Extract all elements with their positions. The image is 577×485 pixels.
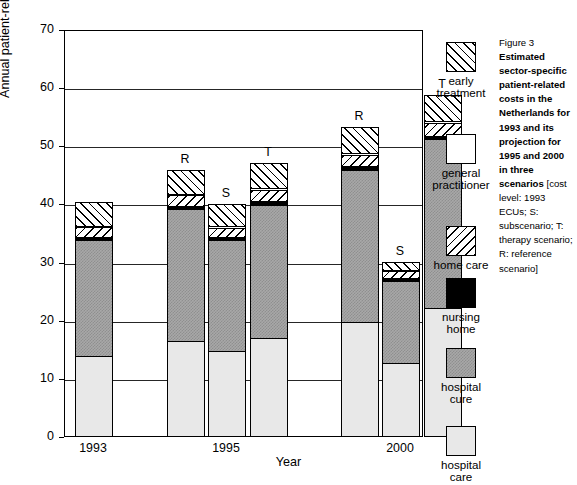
bar-1993	[75, 202, 113, 436]
bar-segment-hospital-cure	[341, 170, 379, 323]
legend-label-home-care: home care	[430, 259, 492, 271]
bar-segment-home-care	[250, 190, 288, 202]
bar-segment-hospital-care	[250, 338, 288, 437]
bar-segment-early-treatment	[208, 204, 246, 227]
bar-segment-home-care	[341, 155, 379, 168]
x-tick-label-1993: 1993	[79, 441, 107, 455]
bar-scenario-tag-1995-T: T	[264, 145, 272, 159]
x-tick-label-2000: 2000	[386, 441, 414, 455]
figure-caption: Figure 3 Estimated sector-specific patie…	[499, 36, 575, 276]
y-tick-label-0: 0	[26, 429, 54, 443]
bar-scenario-tag-2000-T: T	[438, 77, 446, 91]
swatch-general-practitioner	[446, 134, 476, 164]
figure-root: Annual patient-related costs in ECUs (Mi…	[0, 0, 577, 485]
y-tick-label-70: 70	[26, 22, 54, 36]
bar-segment-hospital-care	[167, 341, 205, 437]
bar-segment-home-care	[382, 271, 420, 279]
y-tick-label-40: 40	[26, 196, 54, 210]
bar-segment-hospital-care	[75, 356, 113, 437]
bar-segment-home-care	[167, 195, 205, 206]
legend-item-general-practitioner: generalpractitioner	[430, 134, 492, 192]
legend-item-hospital-cure: hospital cure	[430, 348, 492, 406]
bar-segment-hospital-cure	[382, 281, 420, 364]
y-tick-label-60: 60	[26, 80, 54, 94]
bar-segment-early-treatment	[75, 202, 113, 226]
caption-figure-number: Figure 3	[499, 36, 575, 50]
y-tick-mark-0	[59, 437, 64, 438]
bar-segment-early-treatment	[250, 163, 288, 190]
swatch-home-care	[446, 226, 476, 256]
bar-segment-early-treatment	[382, 262, 420, 271]
legend-item-home-care: home care	[430, 226, 492, 271]
swatch-nursing-home	[446, 278, 476, 308]
legend-label-nursing-home: nursing home	[430, 311, 492, 336]
legend-label-hospital-cure: hospital cure	[430, 381, 492, 406]
swatch-hospital-cure	[446, 348, 476, 378]
swatch-early-treatment	[446, 42, 476, 72]
bar-segment-hospital-cure	[250, 205, 288, 339]
bar-segment-hospital-care	[341, 322, 379, 437]
bar-segment-early-treatment	[167, 170, 205, 195]
bar-1995-R	[167, 170, 205, 436]
legend-label-hospital-care: hospital care	[430, 459, 492, 484]
legend-item-nursing-home: nursing home	[430, 278, 492, 336]
bar-2000-R	[341, 127, 379, 436]
bar-segment-hospital-cure	[208, 240, 246, 351]
bar-1995-T	[250, 163, 288, 436]
bar-scenario-tag-2000-R: R	[355, 109, 364, 123]
bar-segment-hospital-cure	[75, 240, 113, 357]
caption-bold: Estimated sector-specific patient-relate…	[499, 51, 570, 189]
bar-segment-home-care	[75, 227, 113, 237]
y-axis-title: Annual patient-related costs in ECUs (Mi…	[0, 0, 12, 98]
x-tick-label-1995: 1995	[212, 441, 240, 455]
bar-scenario-tag-1995-S: S	[222, 186, 230, 200]
bar-segment-hospital-care	[382, 363, 420, 437]
y-tick-label-50: 50	[26, 138, 54, 152]
bar-segment-home-care	[208, 228, 246, 238]
bar-segment-hospital-care	[208, 351, 246, 437]
bar-scenario-tag-2000-S: S	[396, 244, 404, 258]
y-tick-label-30: 30	[26, 255, 54, 269]
bar-scenario-tag-1995-R: R	[181, 152, 190, 166]
caption-normal: [cost level: 1993 ECUs; S: subscenario; …	[499, 178, 573, 274]
legend-label-general-practitioner: generalpractitioner	[430, 167, 492, 192]
bar-segment-hospital-cure	[167, 209, 205, 341]
plot-area	[64, 30, 423, 437]
y-tick-label-10: 10	[26, 371, 54, 385]
bar-2000-S	[382, 262, 420, 436]
gridline-60	[65, 89, 422, 90]
swatch-hospital-care	[446, 426, 476, 456]
legend-item-hospital-care: hospital care	[430, 426, 492, 484]
y-tick-label-20: 20	[26, 313, 54, 327]
bar-1995-S	[208, 204, 246, 436]
bar-segment-early-treatment	[341, 127, 379, 154]
